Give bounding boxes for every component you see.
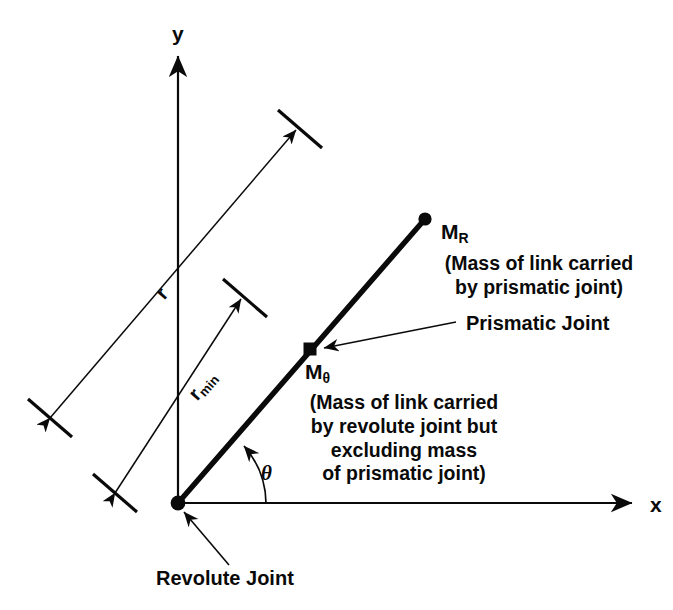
prismatic-leader-line: [324, 322, 456, 348]
mass-subscript-mtheta: θ: [323, 370, 331, 386]
revolute-leader-line: [184, 512, 229, 565]
mass-symbol-mr: M: [441, 220, 459, 243]
diagram-canvas: [0, 0, 673, 610]
theta-label: θ: [261, 461, 272, 487]
revolute-joint-label: Revolute Joint: [156, 566, 294, 590]
mass-symbol-mtheta: M: [305, 360, 323, 383]
revolute-joint-leader: [184, 512, 229, 565]
mass-note-mtheta: (Mass of link carriedby revolute joint b…: [279, 391, 529, 486]
mass-label-mtheta: Mθ: [305, 359, 330, 385]
x-axis-label: x: [650, 492, 662, 518]
joint-dot-icon-revolute: [171, 496, 186, 511]
mass-label-mr: MR: [441, 219, 469, 245]
joint-square-icon-prismatic: [304, 343, 317, 356]
dimension-r-min: [93, 279, 267, 512]
mass-subscript-mr: R: [459, 230, 469, 246]
joint-dot-icon-tip: [418, 212, 431, 225]
prismatic-joint-leader: [324, 322, 456, 348]
dimension-r-arrow: [50, 130, 296, 418]
mass-note-mr: (Mass of link carriedby prismatic joint): [414, 252, 664, 300]
prismatic-joint-label: Prismatic Joint: [466, 311, 609, 335]
y-axis-label: y: [172, 21, 184, 47]
kinematic-diagram: y x MR (Mass of link carriedby prismatic…: [0, 0, 673, 610]
dimension-tick-icon: [223, 279, 267, 317]
